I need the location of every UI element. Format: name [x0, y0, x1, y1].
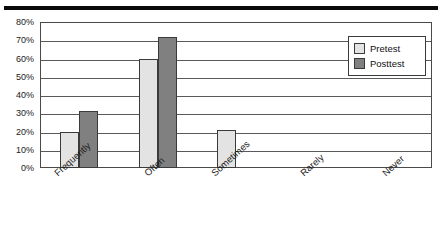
bar-pretest-often[interactable] — [139, 59, 158, 169]
legend-row-posttest[interactable]: Posttest — [354, 56, 420, 71]
y-axis-tick-label: 40% — [16, 90, 34, 100]
chart-legend: Pretest Posttest — [348, 36, 426, 76]
top-divider-rule — [4, 6, 438, 10]
light-gray-swatch-icon — [354, 43, 365, 54]
bar-posttest-often[interactable] — [158, 37, 177, 168]
y-axis-tick-label: 70% — [16, 35, 34, 45]
bar-group-often — [118, 22, 196, 168]
y-axis-tick-label: 80% — [16, 17, 34, 27]
bar-group-rarely — [275, 22, 353, 168]
legend-label-pretest: Pretest — [370, 43, 400, 54]
legend-label-posttest: Posttest — [370, 58, 404, 69]
y-axis-tick-label: 0% — [21, 163, 34, 173]
x-axis-labels: Frequently Often Sometimes Rarely Never — [40, 170, 432, 226]
bar-chart-figure: 80% 70% 60% 50% 40% 30% 20% 10% 0% — [0, 0, 442, 229]
legend-row-pretest[interactable]: Pretest — [354, 41, 420, 56]
y-axis-tick-label: 10% — [16, 145, 34, 155]
bar-posttest-frequently[interactable] — [79, 111, 98, 168]
dark-gray-swatch-icon — [354, 58, 365, 69]
y-axis-labels: 80% 70% 60% 50% 40% 30% 20% 10% 0% — [0, 22, 37, 168]
y-axis-tick-label: 20% — [16, 127, 34, 137]
y-axis-tick-label: 30% — [16, 108, 34, 118]
y-axis-tick-label: 60% — [16, 54, 34, 64]
y-axis-tick-label: 50% — [16, 72, 34, 82]
